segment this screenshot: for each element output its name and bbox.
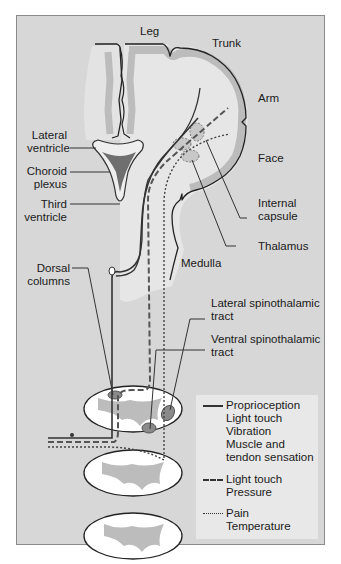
legend-item-dotted: Pain Temperature bbox=[196, 507, 318, 537]
thalamus-region-2 bbox=[181, 150, 199, 162]
label-choroid-plexus: Choroidplexus bbox=[20, 165, 67, 191]
legend-item-dashed: Light touch Pressure bbox=[196, 473, 318, 503]
label-lateral-spinothalamic: Lateral spinothalamictract bbox=[211, 297, 320, 323]
label-trunk: Trunk bbox=[212, 37, 241, 50]
label-dorsal-columns: Dorsalcolumns bbox=[20, 262, 70, 288]
label-medulla: Medulla bbox=[181, 257, 221, 270]
label-leg: Leg bbox=[140, 25, 159, 38]
dashed-line-swatch-icon bbox=[203, 479, 223, 481]
legend: Proprioception Light touch Vibration Mus… bbox=[196, 395, 318, 539]
left-hemisphere bbox=[84, 44, 120, 140]
label-arm: Arm bbox=[258, 92, 279, 105]
label-lateral-ventricle: Lateralventricle bbox=[27, 129, 67, 155]
label-third-ventricle: Thirdventricle bbox=[20, 198, 67, 224]
nucleus-gracilis bbox=[109, 267, 115, 275]
label-face: Face bbox=[258, 152, 284, 165]
dorsal-root-ganglion bbox=[70, 433, 74, 437]
legend-item-solid: Proprioception Light touch Vibration Mus… bbox=[196, 399, 318, 469]
label-thalamus: Thalamus bbox=[258, 240, 309, 253]
cord-section-2 bbox=[84, 450, 182, 496]
dotted-line-swatch-icon bbox=[203, 513, 223, 514]
label-internal-capsule: Internalcapsule bbox=[258, 197, 298, 223]
label-ventral-spinothalamic: Ventral spinothalamictract bbox=[211, 333, 320, 359]
solid-line-swatch-icon bbox=[203, 405, 223, 407]
cord-section-3 bbox=[84, 513, 182, 559]
cord-section-1 bbox=[84, 386, 182, 433]
